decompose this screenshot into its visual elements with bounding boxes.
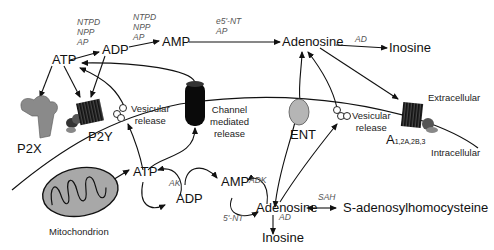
arrow-atp-p2y bbox=[64, 66, 80, 97]
label-intracellular: Intracellular bbox=[431, 148, 480, 158]
enzyme-label-atp-adp: NTPD NPP AP bbox=[77, 17, 100, 48]
p2y-receptor bbox=[66, 99, 104, 133]
node-s-adenosylhomocysteine: S-adenosylhomocysteine bbox=[343, 201, 488, 214]
arrow-adenosine-inosine bbox=[336, 45, 387, 48]
adenosine-a-receptor bbox=[401, 102, 438, 133]
mitochondrion-organelle bbox=[39, 162, 122, 222]
label-p2y: P2Y bbox=[88, 130, 113, 143]
label-mitochondrion: Mitochondrion bbox=[49, 227, 109, 237]
node-amp-extracellular: AMP bbox=[162, 35, 190, 48]
label-p2x: P2X bbox=[17, 142, 42, 155]
arrow-adp-p2y bbox=[91, 56, 105, 97]
arrow-atp-amp-int bbox=[185, 168, 217, 185]
channel-mediated-release-pore bbox=[185, 81, 205, 126]
ent-transporter bbox=[289, 99, 309, 125]
node-inosine-intracellular: Inosine bbox=[262, 231, 304, 244]
node-atp-intracellular: ATP bbox=[133, 165, 157, 178]
label-vesicular-release-right: Vesicular release bbox=[352, 110, 391, 134]
enzyme-label-adk: ADK bbox=[249, 175, 266, 185]
label-ent: ENT bbox=[290, 128, 316, 141]
label-vesicular-release-left: Vesicular release bbox=[131, 103, 170, 127]
enzyme-label-ak: AK bbox=[169, 178, 180, 188]
enzyme-label-ad-int: AD bbox=[279, 212, 291, 222]
enzyme-label-sah: SAH bbox=[318, 192, 335, 202]
label-extracellular: Extracellular bbox=[428, 93, 480, 103]
p2x-receptor bbox=[21, 96, 58, 138]
vesicles-left bbox=[114, 105, 127, 122]
arrow-ent-adenosine bbox=[299, 52, 302, 101]
node-atp-extracellular: ATP bbox=[52, 53, 76, 66]
label-a-receptor: A1,2A,2B,3 bbox=[386, 133, 425, 146]
arrow-atp-p2x bbox=[40, 66, 52, 97]
label-channel-mediated-release: Channel mediated release bbox=[210, 104, 249, 140]
enzyme-label-5nt: 5'-NT bbox=[223, 213, 244, 223]
enzyme-label-amp-adenosine: e5'-NT AP bbox=[216, 16, 241, 36]
node-inosine-extracellular: Inosine bbox=[389, 41, 431, 54]
node-adenosine-extracellular: Adenosine bbox=[282, 35, 343, 48]
node-amp-intracellular: AMP bbox=[221, 175, 249, 188]
node-adp-intracellular: ADP bbox=[176, 192, 203, 205]
enzyme-label-adp-amp: NTPD NPP AP bbox=[133, 12, 156, 43]
enzyme-label-ad-ext: AD bbox=[355, 34, 367, 44]
vesicles-right bbox=[334, 107, 351, 120]
purinergic-signaling-diagram: NTPD NPP AP NTPD NPP AP e5'-NT AP AD ATP… bbox=[0, 0, 494, 250]
arrow-atp-adp-int bbox=[142, 182, 165, 208]
node-adp-extracellular: ADP bbox=[102, 43, 129, 56]
